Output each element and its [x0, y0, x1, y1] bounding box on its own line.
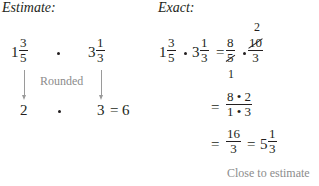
numerator: 16 — [226, 127, 241, 141]
denominator: 5 — [167, 51, 176, 65]
denominator: 3 — [96, 51, 105, 65]
estimate-first-whole: 1 — [11, 44, 19, 61]
multiply-dot-icon — [184, 52, 187, 55]
improper-fraction: 16 3 — [226, 127, 241, 156]
equals-sign: = — [211, 99, 219, 116]
product-fraction: 8 • 2 1 • 3 — [226, 90, 252, 119]
estimate-first-fraction: 3 5 — [19, 36, 28, 65]
mixed-whole: 5 — [260, 136, 268, 153]
rounded-label: Rounded — [40, 74, 83, 89]
numerator: 3 — [167, 36, 176, 50]
denominator: 3 — [268, 142, 277, 156]
exact-f1-fraction: 8 5 — [226, 36, 235, 65]
estimate-second-fraction: 1 3 — [96, 36, 105, 65]
equals-sign: = — [216, 44, 224, 61]
exact-b-whole: 3 — [192, 44, 200, 61]
estimate-result: 6 — [122, 102, 130, 119]
cancel-result-denominator: 1 — [228, 67, 234, 82]
rounded-second: 3 — [97, 102, 105, 119]
estimate-second-whole: 3 — [88, 44, 96, 61]
numerator: 1 — [96, 36, 105, 50]
denominator: 3 — [229, 142, 238, 156]
denominator: 3 — [200, 51, 209, 65]
denominator: 1 • 3 — [226, 105, 252, 119]
equals-sign: = — [247, 136, 255, 153]
exact-a-whole: 1 — [159, 44, 167, 61]
rounding-arrow-left — [24, 70, 25, 97]
equals-sign: = — [110, 102, 118, 119]
multiply-dot-icon — [58, 110, 61, 113]
rounded-first: 2 — [20, 102, 28, 119]
close-to-estimate-note: Close to estimate — [227, 166, 310, 181]
exact-b-fraction: 1 3 — [200, 36, 209, 65]
estimate-heading: Estimate: — [2, 0, 56, 16]
cancelled-numerator: 10 — [248, 36, 263, 50]
numerator: 1 — [200, 36, 209, 50]
mixed-fraction: 1 3 — [268, 127, 277, 156]
denominator: 5 — [19, 51, 28, 65]
arrow-down-icon — [22, 95, 26, 100]
cancelled-denominator: 5 — [226, 51, 235, 65]
equals-sign: = — [211, 136, 219, 153]
exact-a-fraction: 3 5 — [167, 36, 176, 65]
cancel-result-numerator: 2 — [254, 20, 260, 35]
numerator: 8 • 2 — [226, 90, 252, 104]
denominator: 3 — [251, 51, 260, 65]
multiply-dot-icon — [243, 52, 246, 55]
arrow-down-icon — [99, 95, 103, 100]
numerator: 1 — [268, 127, 277, 141]
numerator: 8 — [226, 36, 235, 50]
exact-f2-fraction: 10 3 — [248, 36, 263, 65]
rounding-arrow-right — [101, 70, 102, 97]
exact-heading: Exact: — [158, 0, 195, 16]
multiply-dot-icon — [57, 52, 60, 55]
numerator: 3 — [19, 36, 28, 50]
